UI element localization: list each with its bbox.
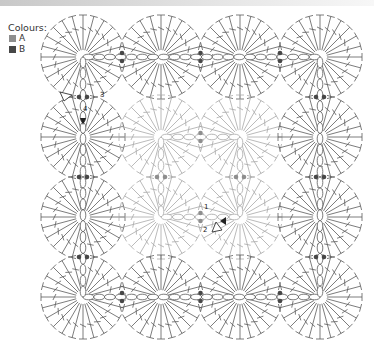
chain-stitch: [80, 155, 86, 166]
chain-stitch: [298, 54, 309, 60]
chain-stitch: [184, 134, 195, 140]
chain-stitch: [317, 177, 323, 188]
chain-stitch: [317, 264, 323, 275]
chain-stitch: [158, 54, 169, 60]
chain-stitch: [148, 54, 159, 60]
chain-stitch: [206, 214, 217, 220]
join-dot: [120, 299, 125, 304]
chain-stitch: [148, 294, 159, 300]
chain-stitch: [234, 294, 245, 300]
chain-stitch: [317, 122, 323, 133]
chain-stitch: [126, 54, 137, 60]
join-dot: [85, 255, 90, 260]
chain-stitch: [223, 294, 234, 300]
chain-stitch: [298, 294, 309, 300]
chain-stitch: [223, 54, 234, 60]
chain-stitch: [158, 194, 164, 205]
join-dot: [198, 291, 203, 296]
chain-stitch: [317, 68, 323, 79]
chain-stitch: [201, 54, 212, 60]
chain-stitch: [80, 232, 86, 243]
crochet-chart: 3412: [0, 0, 374, 352]
join-dot: [234, 175, 239, 180]
join-dot: [155, 175, 160, 180]
join-dot: [314, 255, 319, 260]
chain-stitch: [244, 54, 255, 60]
chain-stitch: [184, 214, 195, 220]
chain-stitch: [317, 101, 323, 112]
chain-stitch: [80, 90, 86, 101]
join-dot: [278, 291, 283, 296]
chain-stitch: [206, 134, 217, 140]
join-dot: [163, 175, 168, 180]
chain-stitch: [94, 294, 105, 300]
chain-stitch: [80, 275, 86, 286]
chain-stitch: [244, 294, 255, 300]
join-dot: [120, 291, 125, 296]
join-dot: [77, 255, 82, 260]
chain-stitch: [104, 54, 115, 60]
chain-stitch: [80, 264, 86, 275]
join-dot: [120, 59, 125, 64]
chain-stitch: [266, 294, 277, 300]
join-dot: [85, 95, 90, 100]
chain-stitch: [172, 134, 183, 140]
chain-stitch: [317, 221, 323, 232]
join-dot: [120, 51, 125, 56]
chain-stitch: [158, 149, 164, 160]
chain-stitch: [317, 199, 323, 210]
chain-stitch: [234, 54, 245, 60]
chain-stitch: [169, 294, 180, 300]
join-dot: [85, 175, 90, 180]
chain-stitch: [277, 54, 288, 60]
round-label: 2: [203, 226, 207, 234]
chain-stitch: [158, 206, 164, 217]
chain-stitch: [317, 166, 323, 177]
chain-stitch: [137, 294, 148, 300]
chain-stitch: [80, 177, 86, 188]
join-dot: [198, 51, 203, 56]
join-dot: [322, 255, 327, 260]
chain-stitch: [317, 286, 323, 297]
chain-stitch: [317, 90, 323, 101]
join-dot: [314, 175, 319, 180]
chain-stitch: [94, 54, 105, 60]
join-dot: [198, 219, 203, 224]
start-marker-icon: [60, 92, 72, 101]
chain-stitch: [317, 242, 323, 253]
chain-stitch: [126, 294, 137, 300]
chain-stitch: [317, 133, 323, 144]
chain-stitch: [212, 54, 223, 60]
chain-stitch: [201, 294, 212, 300]
chain-stitch: [80, 253, 86, 264]
chain-stitch: [317, 57, 323, 68]
chain-stitch: [115, 294, 126, 300]
round-label: 4: [83, 105, 88, 113]
join-dot: [198, 59, 203, 64]
chain-stitch: [317, 210, 323, 221]
chain-stitch: [317, 112, 323, 123]
chain-stitch: [180, 294, 191, 300]
join-dot: [278, 299, 283, 304]
chain-stitch: [237, 137, 243, 148]
round-label: 3: [100, 91, 104, 99]
join-dot: [198, 131, 203, 136]
chain-stitch: [80, 210, 86, 221]
join-dot: [77, 175, 82, 180]
chain-stitch: [237, 160, 243, 171]
chain-stitch: [317, 275, 323, 286]
chain-stitch: [80, 221, 86, 232]
chain-stitch: [80, 286, 86, 297]
chain-stitch: [317, 79, 323, 90]
chain-stitch: [80, 68, 86, 79]
start-marker-icon: [212, 222, 222, 232]
chain-stitch: [218, 134, 229, 140]
chain-stitch: [80, 188, 86, 199]
chain-stitch: [317, 144, 323, 155]
chain-stitch: [180, 54, 191, 60]
chain-stitch: [137, 54, 148, 60]
chain-stitch: [104, 294, 115, 300]
chain-stitch: [237, 206, 243, 217]
chain-stitch: [80, 166, 86, 177]
join-dot: [198, 299, 203, 304]
